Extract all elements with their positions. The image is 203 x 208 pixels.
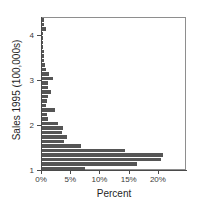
x-tick-label: 5% xyxy=(64,175,76,184)
bar xyxy=(42,81,48,85)
bar xyxy=(42,113,47,117)
x-tick-label: 0% xyxy=(35,175,47,184)
bar xyxy=(42,90,51,94)
y-axis-title: Sales 1995 (100,000s) xyxy=(11,15,23,165)
x-tick xyxy=(70,170,71,174)
bar xyxy=(42,54,44,58)
bar xyxy=(42,122,58,126)
bar xyxy=(42,153,163,157)
bar xyxy=(42,104,46,108)
y-tick xyxy=(37,125,41,126)
bar xyxy=(42,126,63,130)
bar xyxy=(42,41,43,45)
bar xyxy=(42,72,49,76)
plot-frame xyxy=(41,17,186,170)
x-tick xyxy=(41,170,42,174)
bar xyxy=(42,45,43,49)
histogram-chart: 0%5%10%15%20% 1234 Percent Sales 1995 (1… xyxy=(0,0,203,208)
bar xyxy=(42,86,48,90)
bar xyxy=(42,23,44,27)
bar xyxy=(42,27,46,31)
bar xyxy=(42,36,43,40)
x-tick-label: 15% xyxy=(121,175,137,184)
x-tick xyxy=(129,170,130,174)
bar xyxy=(42,77,53,81)
bar xyxy=(42,68,46,72)
bar xyxy=(42,50,44,54)
bar xyxy=(42,144,81,148)
x-tick-label: 20% xyxy=(150,175,166,184)
y-tick xyxy=(37,170,41,171)
bar xyxy=(42,158,161,162)
x-tick xyxy=(99,170,100,174)
x-axis-line xyxy=(41,170,187,171)
plot-area xyxy=(42,18,185,169)
x-axis-title: Percent xyxy=(41,188,187,200)
bar xyxy=(42,32,43,36)
x-tick xyxy=(158,170,159,174)
bar xyxy=(42,95,48,99)
bar xyxy=(42,108,55,112)
bar xyxy=(42,18,44,22)
bar xyxy=(42,59,44,63)
y-tick xyxy=(37,80,41,81)
bar xyxy=(42,117,48,121)
bar xyxy=(42,131,62,135)
bar xyxy=(42,149,125,153)
y-tick-label: 1 xyxy=(0,166,34,175)
bar xyxy=(42,162,137,166)
bar xyxy=(42,99,47,103)
bar xyxy=(42,63,45,67)
y-axis-line xyxy=(41,17,42,171)
bar xyxy=(42,135,67,139)
bar xyxy=(42,140,64,144)
y-tick xyxy=(37,35,41,36)
x-tick-label: 10% xyxy=(91,175,107,184)
